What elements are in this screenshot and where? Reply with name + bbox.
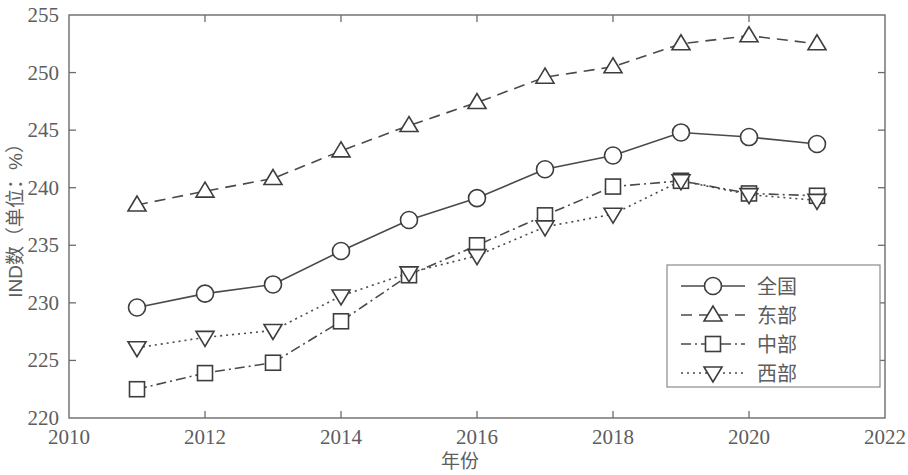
- data-point-marker-1-1: [129, 299, 146, 316]
- series-line-2: [137, 36, 817, 205]
- y-tick-label: 230: [28, 291, 60, 315]
- data-point-marker-3-8: [606, 179, 621, 194]
- data-point-marker-4-4: [332, 290, 350, 305]
- data-point-marker-1-10: [741, 129, 758, 146]
- x-axis-tick-labels: 2010201220142016201820202022: [48, 425, 906, 449]
- legend-label-3: 中部: [757, 334, 797, 356]
- series-2: [128, 27, 826, 211]
- data-point-marker-4-7: [536, 221, 554, 236]
- chart-legend: 全国东部中部西部: [667, 265, 880, 387]
- data-point-marker-4-3: [264, 324, 282, 339]
- data-point-marker-1-6: [469, 190, 486, 207]
- data-point-marker-2-9: [672, 35, 690, 50]
- data-point-marker-1-2: [197, 285, 214, 302]
- y-tick-label: 220: [28, 406, 60, 430]
- x-axis-title: 年份: [441, 451, 479, 472]
- data-point-marker-legend-3: [706, 337, 721, 352]
- line-chart-canvas: 2010201220142016201820202022 22022523023…: [0, 0, 908, 475]
- y-tick-label: 235: [28, 233, 60, 257]
- chart-figure: 2010201220142016201820202022 22022523023…: [0, 0, 908, 475]
- data-point-marker-2-3: [264, 170, 282, 185]
- legend-label-4: 西部: [757, 363, 797, 385]
- x-tick-label: 2012: [184, 425, 226, 449]
- data-point-marker-2-11: [808, 35, 826, 50]
- data-point-marker-1-3: [265, 276, 282, 293]
- y-tick-label: 240: [28, 176, 60, 200]
- legend-label-2: 东部: [757, 305, 797, 327]
- data-point-marker-1-7: [537, 161, 554, 178]
- data-point-marker-1-8: [605, 147, 622, 164]
- y-tick-label: 225: [28, 348, 60, 372]
- data-point-marker-legend-1: [705, 278, 722, 295]
- x-tick-label: 2016: [456, 425, 498, 449]
- x-tick-label: 2014: [320, 425, 363, 449]
- data-point-marker-4-8: [604, 208, 622, 223]
- x-tick-label: 2018: [592, 425, 634, 449]
- data-point-marker-3-4: [334, 314, 349, 329]
- data-point-marker-1-9: [673, 124, 690, 141]
- y-axis-title: IND数（单位：%）: [5, 134, 26, 298]
- x-tick-label: 2020: [728, 425, 770, 449]
- y-tick-label: 255: [28, 3, 60, 27]
- y-tick-label: 245: [28, 118, 60, 142]
- data-point-marker-3-1: [130, 382, 145, 397]
- data-point-marker-1-4: [333, 243, 350, 260]
- data-point-marker-4-1: [128, 342, 146, 357]
- y-tick-label: 250: [28, 61, 60, 85]
- data-point-marker-3-3: [266, 355, 281, 370]
- data-point-marker-1-11: [809, 135, 826, 152]
- data-point-marker-4-2: [196, 331, 214, 346]
- data-point-marker-3-2: [198, 366, 213, 381]
- legend-label-1: 全国: [757, 276, 797, 298]
- data-point-marker-2-10: [740, 27, 758, 42]
- y-axis-tick-labels: 220225230235240245250255: [28, 3, 60, 430]
- data-point-marker-1-5: [401, 211, 418, 228]
- x-tick-label: 2022: [864, 425, 906, 449]
